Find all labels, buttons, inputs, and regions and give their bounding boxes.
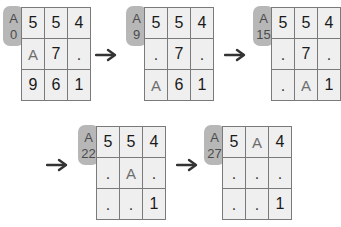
grid-cell: 4 <box>191 8 213 38</box>
grid-cell-agent: A <box>295 70 317 100</box>
badge-step-number: 22 <box>81 145 95 161</box>
grid-cell-empty: . <box>318 39 340 69</box>
grid-cell: 5 <box>168 8 190 38</box>
grid: 5 5 4 . A . . . 1 <box>96 126 166 220</box>
grid-cell-agent: A <box>120 158 142 188</box>
grid-cell: 6 <box>168 70 190 100</box>
grid-cell: 5 <box>145 8 167 38</box>
grid-cell: 4 <box>68 8 90 38</box>
badge-letter: A <box>84 129 93 145</box>
grid-cell: 1 <box>318 70 340 100</box>
grid-cell: 4 <box>269 127 291 157</box>
grid: 5 A 4 . . . . . 1 <box>222 126 292 220</box>
grid-cell-agent: A <box>246 127 268 157</box>
grid-cell: 7 <box>168 39 190 69</box>
transition-arrow-icon <box>95 48 119 62</box>
grid-cell-empty: . <box>272 39 294 69</box>
grid-cell-agent: A <box>145 70 167 100</box>
grid-cell: 5 <box>120 127 142 157</box>
grid-cell: 4 <box>143 127 165 157</box>
badge-step-number: 0 <box>10 26 17 42</box>
grid-cell: 6 <box>45 70 67 100</box>
grid-cell-empty: . <box>272 70 294 100</box>
grid-cell: 1 <box>191 70 213 100</box>
grid-cell-empty: . <box>246 158 268 188</box>
grid-cell: 1 <box>269 189 291 219</box>
badge-step-number: 15 <box>256 26 270 42</box>
grid: 5 5 4 . 7 . A 6 1 <box>144 7 214 101</box>
transition-arrow-icon <box>46 158 70 172</box>
grid-cell: 4 <box>318 8 340 38</box>
grid-cell-empty: . <box>143 158 165 188</box>
grid-cell: 5 <box>295 8 317 38</box>
grid-cell-empty: . <box>223 158 245 188</box>
grid-cell: 9 <box>22 70 44 100</box>
grid-cell: 7 <box>45 39 67 69</box>
grid-cell: 5 <box>97 127 119 157</box>
grid-cell-empty: . <box>120 189 142 219</box>
grid-cell-empty: . <box>97 158 119 188</box>
transition-arrow-icon <box>176 158 200 172</box>
badge-step-number: 9 <box>133 26 140 42</box>
grid-cell-empty: . <box>223 189 245 219</box>
grid-cell: 5 <box>272 8 294 38</box>
grid-cell: 1 <box>68 70 90 100</box>
grid-cell-empty: . <box>246 189 268 219</box>
grid-cell: 7 <box>295 39 317 69</box>
grid-cell-agent: A <box>22 39 44 69</box>
badge-letter: A <box>259 10 268 26</box>
grid-cell-empty: . <box>68 39 90 69</box>
badge-letter: A <box>132 10 141 26</box>
transition-arrow-icon <box>224 48 248 62</box>
badge-step-number: 27 <box>207 145 221 161</box>
badge-letter: A <box>9 10 18 26</box>
grid-cell-empty: . <box>269 158 291 188</box>
badge-letter: A <box>210 129 219 145</box>
grid-cell: 1 <box>143 189 165 219</box>
grid-cell-empty: . <box>145 39 167 69</box>
grid-cell: 5 <box>223 127 245 157</box>
grid-cell: 5 <box>45 8 67 38</box>
grid: 5 5 4 A 7 . 9 6 1 <box>21 7 91 101</box>
grid-cell: 5 <box>22 8 44 38</box>
grid-cell-empty: . <box>191 39 213 69</box>
grid-cell-empty: . <box>97 189 119 219</box>
grid: 5 5 4 . 7 . . A 1 <box>271 7 341 101</box>
